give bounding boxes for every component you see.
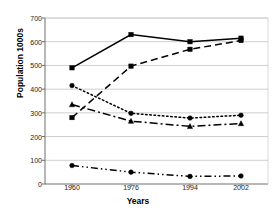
data-point-marker [188,174,193,179]
x-axis-title: Years [0,196,276,206]
data-point-marker [70,115,74,119]
data-point-marker [129,111,134,116]
data-point-marker [69,102,74,107]
line-chart: Population 1000s 700 600 500 400 300 200… [0,0,276,213]
y-tick-label: 100 [16,157,42,164]
data-point-marker [129,32,133,36]
x-tick-label: 1994 [170,184,210,191]
series-line [72,41,241,118]
data-point-marker [70,83,75,88]
series-line [72,105,241,127]
series-line [72,166,241,177]
data-point-marker [238,121,243,126]
y-tick-label: 200 [16,133,42,140]
y-tick-label: 600 [16,38,42,45]
data-point-marker [70,66,74,70]
y-tick-label: 700 [16,15,42,22]
series-line [72,35,241,68]
data-point-marker [129,64,133,68]
data-point-marker [188,40,192,44]
data-point-marker [188,47,192,51]
y-tick-label: 500 [16,62,42,69]
data-point-marker [188,116,193,121]
plot-frame [45,18,268,184]
data-point-marker [239,113,244,118]
series-layer [69,32,243,178]
data-point-marker [239,174,244,179]
x-tick-label: 1960 [52,184,92,191]
y-tick-label: 400 [16,86,42,93]
y-tick-label: 0 [16,180,42,187]
data-point-marker [239,38,243,42]
x-tick-label: 1976 [111,184,151,191]
x-tick-label: 2002 [221,184,261,191]
y-tick-label: 300 [16,109,42,116]
data-point-marker [129,170,134,175]
data-point-marker [70,163,75,168]
